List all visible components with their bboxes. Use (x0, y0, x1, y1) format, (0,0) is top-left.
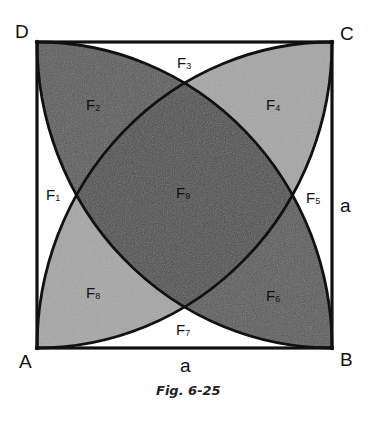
region-label-f5: F5 (306, 189, 320, 206)
square-arcs-diagram: D C A B a a F1 F2 F3 F4 F5 F6 F7 F8 F9 F… (0, 0, 374, 426)
vertex-dot-d (35, 40, 39, 44)
vertex-label-d: D (15, 21, 29, 42)
vertex-label-a: A (19, 351, 32, 372)
region-label-f3: F3 (177, 54, 191, 71)
vertex-dot-b (330, 346, 334, 350)
vertex-dot-a (35, 346, 39, 350)
vertex-label-b: B (340, 349, 353, 370)
region-label-f1: F1 (46, 186, 60, 203)
side-label-bottom: a (180, 355, 191, 376)
side-label-right: a (340, 195, 351, 216)
region-label-f7: F7 (176, 321, 190, 338)
vertex-dot-c (330, 40, 334, 44)
vertex-label-c: C (340, 23, 354, 44)
figure-caption: Fig. 6-25 (156, 383, 221, 398)
